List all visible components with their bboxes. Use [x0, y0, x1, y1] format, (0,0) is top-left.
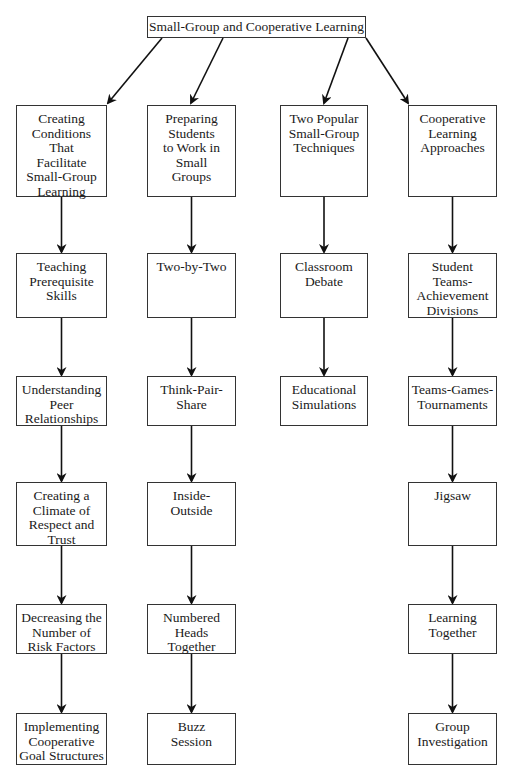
- node-c3-1: Classroom Debate: [280, 253, 368, 318]
- node-c2-5: Buzz Session: [147, 713, 236, 765]
- column-header-c1: Creating Conditions That Facilitate Smal…: [16, 105, 107, 197]
- node-c2-4: Numbered Heads Together: [147, 604, 236, 654]
- arrow-root-to-c2: [191, 38, 223, 103]
- node-c4-3: Jigsaw: [408, 482, 497, 546]
- node-c1-3: Creating a Climate of Respect and Trust: [16, 482, 107, 546]
- node-c1-1: Teaching Prerequisite Skills: [16, 253, 107, 318]
- column-header-c2: Preparing Students to Work in Small Grou…: [147, 105, 236, 197]
- node-c2-3: Inside- Outside: [147, 482, 236, 546]
- node-c1-4: Decreasing the Number of Risk Factors: [16, 604, 107, 654]
- arrow-root-to-c4: [366, 38, 408, 103]
- arrow-root-to-c3: [324, 38, 348, 103]
- node-c4-5: Group Investigation: [408, 713, 497, 765]
- node-c4-2: Teams-Games- Tournaments: [408, 376, 497, 426]
- node-c4-4: Learning Together: [408, 604, 497, 654]
- node-c1-2: Understanding Peer Relationships: [16, 376, 107, 426]
- node-c2-2: Think-Pair- Share: [147, 376, 236, 426]
- arrow-root-to-c1: [108, 38, 162, 103]
- node-c1-5: Implementing Cooperative Goal Structures: [16, 713, 107, 765]
- node-c4-1: Student Teams- Achievement Divisions: [408, 253, 497, 318]
- node-c3-2: Educational Simulations: [280, 376, 368, 426]
- root-node: Small-Group and Cooperative Learning: [147, 16, 366, 38]
- column-header-c3: Two Popular Small-Group Techniques: [280, 105, 368, 197]
- node-c2-1: Two-by-Two: [147, 253, 236, 318]
- column-header-c4: Cooperative Learning Approaches: [408, 105, 497, 197]
